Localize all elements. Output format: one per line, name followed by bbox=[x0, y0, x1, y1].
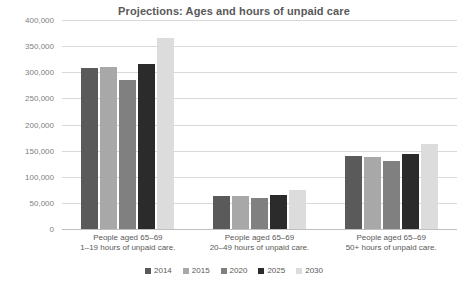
category-label-line-1: People aged 65–69 bbox=[325, 233, 457, 243]
legend-swatch-icon bbox=[258, 268, 264, 274]
legend-label: 2015 bbox=[192, 266, 210, 275]
y-axis-tick-label: 250,000 bbox=[0, 94, 54, 103]
bar-2014 bbox=[81, 68, 98, 229]
bar-group bbox=[194, 20, 326, 229]
bar-2030 bbox=[157, 38, 174, 229]
bar-2030 bbox=[421, 144, 438, 229]
y-axis-tick-label: 50,000 bbox=[0, 198, 54, 207]
bar-2020 bbox=[251, 198, 268, 229]
chart-legend: 20142015202020252030 bbox=[0, 266, 468, 275]
x-axis-category-label: People aged 65–6950+ hours of unpaid car… bbox=[325, 233, 457, 253]
y-axis-tick-label: 350,000 bbox=[0, 42, 54, 51]
bar-2014 bbox=[345, 156, 362, 229]
x-axis-category-label: People aged 65–6920–49 hours of unpaid c… bbox=[194, 233, 326, 253]
legend-swatch-icon bbox=[296, 268, 302, 274]
legend-label: 2014 bbox=[154, 266, 172, 275]
y-axis-tick-label: 200,000 bbox=[0, 120, 54, 129]
bar-2015 bbox=[232, 196, 249, 229]
legend-label: 2020 bbox=[230, 266, 248, 275]
legend-label: 2025 bbox=[267, 266, 285, 275]
category-label-line-2: 1–19 hours of unpaid care. bbox=[62, 243, 194, 253]
legend-swatch-icon bbox=[221, 268, 227, 274]
y-axis-tick-label: 150,000 bbox=[0, 146, 54, 155]
bar-2025 bbox=[270, 195, 287, 229]
legend-item-2015[interactable]: 2015 bbox=[183, 266, 210, 275]
chart-container: Projections: Ages and hours of unpaid ca… bbox=[0, 0, 468, 295]
category-label-line-1: People aged 65–69 bbox=[62, 233, 194, 243]
axis-baseline bbox=[62, 229, 457, 230]
legend-item-2014[interactable]: 2014 bbox=[145, 266, 172, 275]
legend-item-2020[interactable]: 2020 bbox=[221, 266, 248, 275]
legend-label: 2030 bbox=[305, 266, 323, 275]
bar-2015 bbox=[100, 67, 117, 229]
legend-swatch-icon bbox=[145, 268, 151, 274]
bar-group bbox=[325, 20, 457, 229]
bar-2020 bbox=[383, 161, 400, 229]
legend-swatch-icon bbox=[183, 268, 189, 274]
legend-item-2025[interactable]: 2025 bbox=[258, 266, 285, 275]
bar-2025 bbox=[138, 64, 155, 229]
bar-2025 bbox=[402, 154, 419, 229]
bar-group bbox=[62, 20, 194, 229]
legend-item-2030[interactable]: 2030 bbox=[296, 266, 323, 275]
bar-2015 bbox=[364, 157, 381, 229]
y-axis-tick-label: 100,000 bbox=[0, 172, 54, 181]
y-axis-tick-label: 300,000 bbox=[0, 68, 54, 77]
plot-area bbox=[62, 20, 457, 229]
x-axis-category-label: People aged 65–691–19 hours of unpaid ca… bbox=[62, 233, 194, 253]
y-axis-tick-label: 400,000 bbox=[0, 16, 54, 25]
y-axis-tick-label: 0 bbox=[0, 225, 54, 234]
category-label-line-2: 50+ hours of unpaid care. bbox=[325, 243, 457, 253]
category-label-line-2: 20–49 hours of unpaid care. bbox=[194, 243, 326, 253]
category-label-line-1: People aged 65–69 bbox=[194, 233, 326, 243]
chart-title: Projections: Ages and hours of unpaid ca… bbox=[0, 5, 468, 17]
bar-2030 bbox=[289, 190, 306, 229]
bar-2020 bbox=[119, 80, 136, 229]
bar-2014 bbox=[213, 196, 230, 229]
